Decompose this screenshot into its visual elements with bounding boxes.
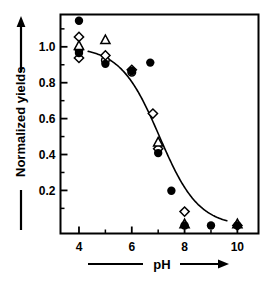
y-tick-label: 0.4 xyxy=(39,148,56,162)
data-point-filled-circle xyxy=(233,221,241,229)
y-tick-label: 0.2 xyxy=(39,184,56,198)
data-point-filled-circle xyxy=(75,17,83,25)
data-point-filled-circle xyxy=(146,58,154,66)
y-axis-title: Normalized yields xyxy=(13,66,28,177)
x-axis-title: pH xyxy=(153,257,170,272)
y-tick-label: 1.0 xyxy=(39,40,56,54)
data-point-filled-circle xyxy=(154,149,162,157)
data-point-filled-circle xyxy=(75,49,83,57)
x-tick-label: 8 xyxy=(181,240,188,254)
x-tick-label: 10 xyxy=(231,240,245,254)
x-tick-label: 4 xyxy=(76,240,83,254)
x-tick-label: 6 xyxy=(128,240,135,254)
data-point-filled-circle xyxy=(207,221,215,229)
y-tick-label: 0.6 xyxy=(39,112,56,126)
data-point-filled-circle xyxy=(128,67,136,75)
data-point-filled-circle xyxy=(180,221,188,229)
chart-svg: 468100.20.40.60.81.0 Normalized yields p… xyxy=(0,0,278,285)
data-point-filled-circle xyxy=(101,60,109,68)
figure-root: 468100.20.40.60.81.0 Normalized yields p… xyxy=(0,0,278,285)
y-tick-label: 0.8 xyxy=(39,76,56,90)
data-point-filled-circle xyxy=(167,187,175,195)
